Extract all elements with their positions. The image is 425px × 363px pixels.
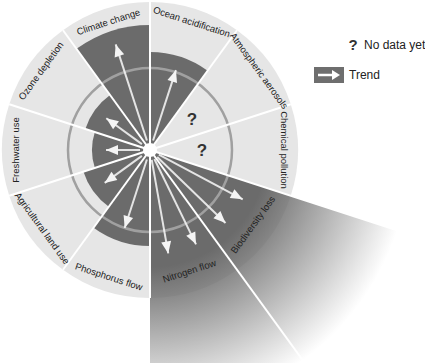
- sector-label-freshwater-use: Freshwater use: [10, 117, 21, 182]
- legend-no-data: ? No data yet: [346, 36, 425, 53]
- trend-arrow-icon: [314, 67, 344, 83]
- legend-trend: Trend: [314, 67, 380, 83]
- question-mark-icon: ?: [346, 36, 360, 53]
- legend-no-data-label: No data yet: [364, 38, 425, 52]
- question-mark-icon: ?: [187, 110, 197, 129]
- sector-label-chemical-pollution: Chemical pollution: [279, 111, 290, 189]
- legend-trend-label: Trend: [349, 68, 380, 82]
- question-mark-icon: ?: [197, 141, 207, 160]
- center-hub: [143, 143, 157, 157]
